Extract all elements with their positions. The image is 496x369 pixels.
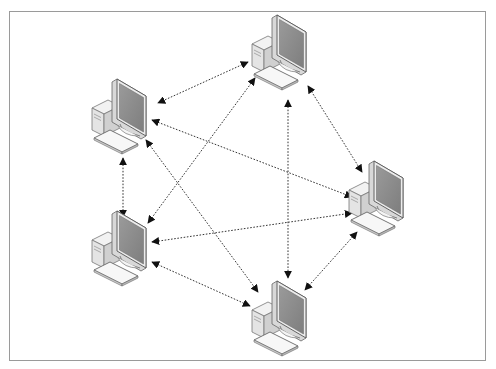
computer-top-icon: Computer 1 <box>252 15 306 90</box>
link-left-upper-right-arrow <box>152 120 352 197</box>
link-top-left-lower-arrow <box>148 78 255 223</box>
network-diagram: Computer 1Computer 2Computer 3Computer 4… <box>0 0 496 369</box>
link-left-upper-bottom-arrow <box>146 140 258 292</box>
computer-left-upper-icon: Computer 2 <box>92 79 146 154</box>
link-top-left-upper-arrow <box>158 62 248 103</box>
computer-right-icon: Computer 3 <box>349 161 403 236</box>
connection-links <box>123 62 362 306</box>
link-left-lower-right-arrow <box>152 213 352 242</box>
computer-bottom-icon: Computer 5 <box>252 281 306 356</box>
link-top-right-arrow <box>308 86 362 172</box>
computer-nodes: Computer 1Computer 2Computer 3Computer 4… <box>92 15 403 356</box>
link-right-bottom-arrow <box>305 232 357 290</box>
computer-left-lower-icon: Computer 4 <box>92 211 146 286</box>
link-left-lower-bottom-arrow <box>152 262 250 306</box>
